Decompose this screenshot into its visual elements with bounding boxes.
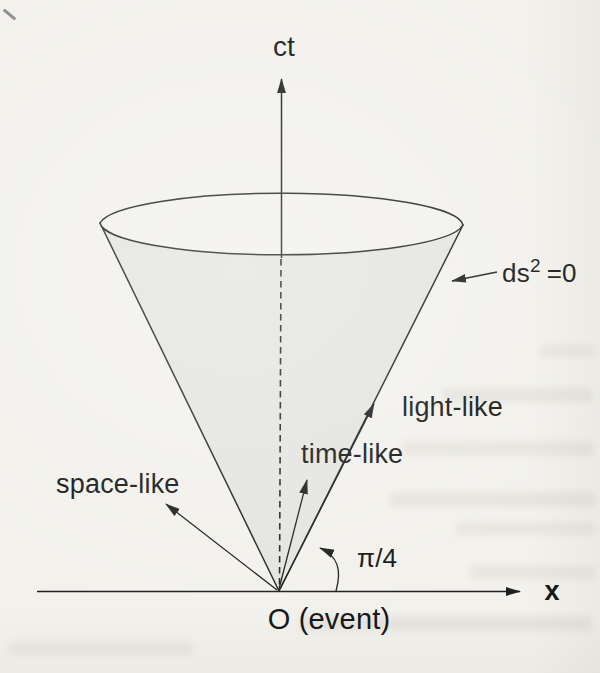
angle-pi-over-4-label: π/4 [357, 545, 397, 571]
light-like-label: light-like [402, 394, 503, 421]
scanned-page: ct x O (event) ds2=0 light-like time-lik… [0, 0, 600, 673]
x-axis-label: x [544, 578, 559, 605]
null-interval-arrow [452, 272, 497, 281]
null-interval-exponent: 2 [530, 255, 541, 276]
null-interval-label: ds2=0 [502, 260, 577, 286]
origin-event-label: O (event) [268, 605, 391, 634]
space-like-label: space-like [56, 471, 180, 498]
light-cone-drawing [0, 0, 600, 673]
null-interval-rhs: =0 [547, 258, 577, 288]
time-like-label: time-like [301, 441, 403, 468]
null-interval-base: ds [502, 258, 530, 288]
ct-axis-label: ct [273, 33, 295, 61]
angle-arc-arrow [320, 548, 339, 591]
